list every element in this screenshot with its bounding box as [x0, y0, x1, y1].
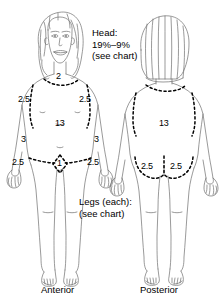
value-anterior-neck: 2 — [56, 72, 61, 81]
value-anterior-hip-right: 2.5 — [87, 158, 99, 167]
legs-note: Legs (each): (see chart) — [79, 196, 132, 219]
divider-back-right — [192, 93, 195, 136]
divider-shoulder-left — [30, 85, 33, 128]
head-note: Head: 19%–9% (see chart) — [92, 27, 137, 62]
head-note-line2: 19%–9% — [92, 39, 137, 51]
value-anterior-hip-left: 2.5 — [12, 158, 24, 167]
burn-chart-diagram: Head: 19%–9% (see chart) Legs (each): (s… — [0, 0, 221, 294]
caption-anterior: Anterior — [41, 285, 74, 294]
value-anterior-shoulder-right: 2.5 — [79, 95, 91, 104]
divider-back-left — [133, 93, 136, 136]
divider-neck-anterior — [44, 79, 79, 85]
value-anterior-forearm-right: 3 — [94, 135, 99, 144]
caption-posterior: Posterior — [140, 285, 178, 294]
value-anterior-trunk: 13 — [55, 119, 65, 128]
divider-hip-left — [29, 158, 56, 163]
value-posterior-back: 13 — [159, 119, 169, 128]
legs-note-line2: (see chart) — [79, 208, 132, 220]
divider-shoulder-right — [87, 85, 90, 128]
value-anterior-genitalia: 1 — [57, 159, 62, 168]
value-posterior-buttock-left: 2.5 — [141, 162, 153, 171]
head-note-line1: Head: — [92, 27, 137, 39]
value-anterior-forearm-left: 3 — [21, 135, 26, 144]
head-note-line3: (see chart) — [92, 50, 137, 62]
value-posterior-buttock-right: 2.5 — [170, 162, 182, 171]
legs-note-line1: Legs (each): — [79, 196, 132, 208]
value-anterior-shoulder-left: 2.5 — [18, 95, 30, 104]
